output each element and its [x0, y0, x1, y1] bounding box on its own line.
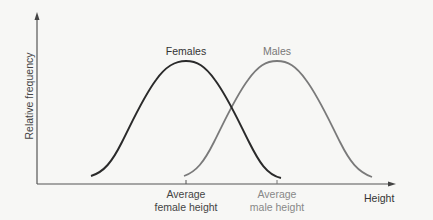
- females-label: Females: [166, 45, 206, 58]
- distribution-diagram: [0, 0, 433, 220]
- male-average-line1: Average: [250, 188, 304, 201]
- female-average-label: Average female height: [154, 188, 217, 214]
- male-average-line2: male height: [250, 201, 304, 214]
- males-label: Males: [263, 45, 291, 58]
- male-average-label: Average male height: [250, 188, 304, 214]
- y-axis-arrow-icon: [35, 12, 40, 20]
- female-average-line1: Average: [154, 188, 217, 201]
- female-average-line2: female height: [154, 201, 217, 214]
- female-curve: [91, 61, 281, 178]
- y-axis-label: Relative frequency: [23, 53, 35, 140]
- x-axis-label: Height: [364, 192, 394, 205]
- x-axis-arrow-icon: [388, 182, 396, 187]
- male-curve: [184, 61, 372, 177]
